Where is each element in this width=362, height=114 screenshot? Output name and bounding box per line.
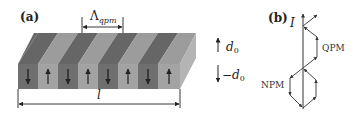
qpm-label: QPM <box>322 43 345 53</box>
length-dimension: l <box>18 88 180 108</box>
panel-a-label: (a) <box>20 10 39 24</box>
panel-b: (b) I QPM NPM <box>261 11 345 109</box>
panel-a: (a) Λqpm <box>18 9 245 108</box>
minus-d0-label: −d0 <box>222 68 245 83</box>
crystal-top-face <box>18 33 196 64</box>
npm-label: NPM <box>261 80 284 90</box>
intensity-label: I <box>289 16 295 30</box>
qpm-path <box>303 15 317 68</box>
polarization-legend: d0 −d0 <box>218 38 245 83</box>
panel-b-label: (b) <box>268 11 288 25</box>
d0-label: d0 <box>226 40 239 55</box>
crystal-front-face <box>18 64 180 89</box>
length-label: l <box>97 88 101 102</box>
qpm-figure: (a) Λqpm <box>0 0 362 114</box>
period-label: Λqpm <box>89 9 117 25</box>
period-dimension: Λqpm <box>82 9 123 34</box>
